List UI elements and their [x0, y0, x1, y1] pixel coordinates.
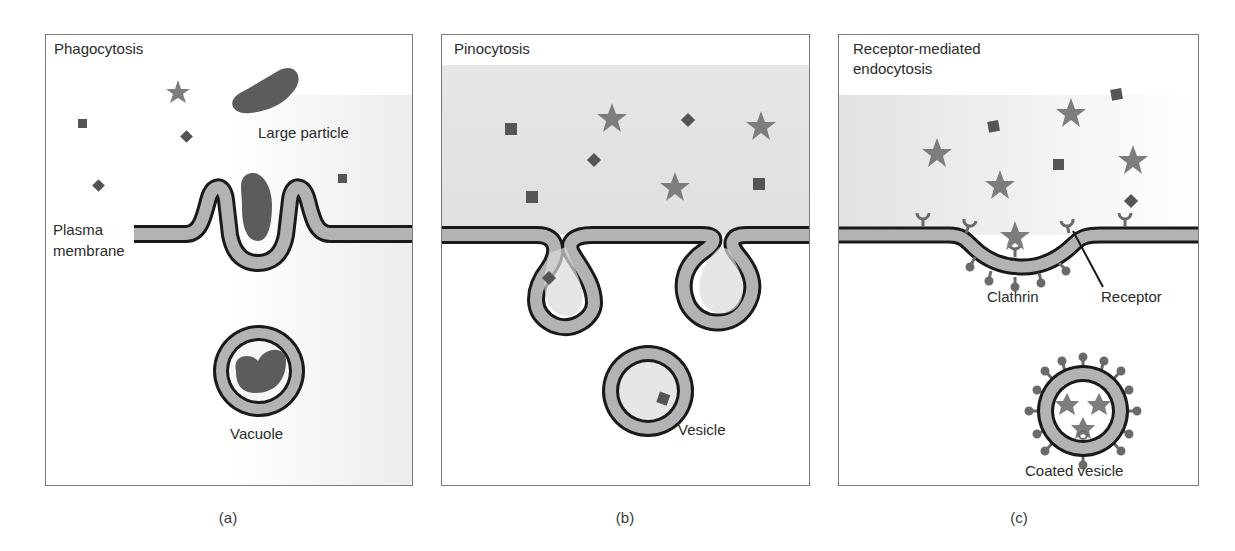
- pinocytosis-illustration: [442, 35, 810, 486]
- panel-title-line2: endocytosis: [853, 60, 932, 78]
- panel-pinocytosis: Pinocytosis Vesicle: [441, 34, 810, 486]
- panel-title: Phagocytosis: [54, 40, 143, 58]
- caption-c: (c): [989, 509, 1049, 526]
- square-molecule-icon: [1110, 88, 1123, 101]
- square-molecule-icon: [753, 178, 765, 190]
- square-molecule-icon: [1053, 159, 1064, 170]
- square-molecule-icon: [338, 174, 347, 183]
- receptor-mediated-endocytosis-illustration: [839, 35, 1199, 486]
- phagocytosis-illustration: [46, 35, 413, 486]
- receptor-label: Receptor: [1101, 288, 1162, 306]
- square-molecule-icon: [987, 120, 1000, 133]
- vesicle-label: Vesicle: [678, 421, 726, 439]
- vacuole-icon: [213, 325, 305, 417]
- plasma-membrane-label-line2: membrane: [53, 242, 125, 260]
- plasma-membrane: [442, 235, 810, 327]
- clathrin-label: Clathrin: [987, 288, 1039, 306]
- vacuole-label: Vacuole: [230, 425, 283, 443]
- square-molecule-icon: [78, 119, 87, 128]
- plasma-membrane-label-line1: Plasma: [53, 221, 103, 239]
- coated-vesicle-icon: [1026, 354, 1140, 468]
- coated-vesicle-label: Coated vesicle: [1025, 462, 1123, 480]
- caption-a: (a): [198, 509, 258, 526]
- square-molecule-icon: [505, 123, 517, 135]
- panel-phagocytosis: Phagocytosis Large particle Plasma membr…: [45, 34, 413, 486]
- square-molecule-icon: [526, 191, 538, 203]
- panel-title: Pinocytosis: [454, 40, 530, 58]
- large-particle-label: Large particle: [258, 124, 349, 142]
- panel-title-line1: Receptor-mediated: [853, 40, 981, 58]
- panel-receptor-mediated-endocytosis: Receptor-mediated endocytosis Clathrin R…: [838, 34, 1199, 486]
- caption-b: (b): [595, 509, 655, 526]
